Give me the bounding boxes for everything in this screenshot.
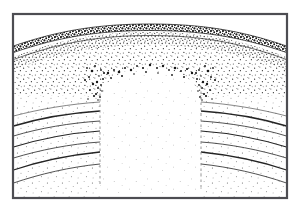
core-dome	[100, 66, 200, 200]
geologic-cross-section-diagram: Geologic Cross Section Line-drawing cros…	[0, 0, 300, 214]
figure-root: Geologic Cross Section Line-drawing cros…	[0, 0, 300, 214]
